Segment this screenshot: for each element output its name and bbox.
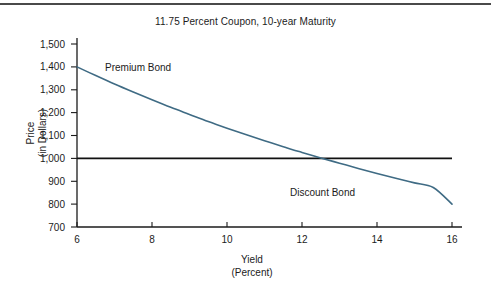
chart-figure: 11.75 Percent Coupon, 10-year Maturity 1… (0, 0, 491, 296)
y-tick-marks (71, 44, 77, 227)
y-axis-title-line2: (in Dollars) (37, 109, 48, 157)
y-tick-label: 700 (48, 222, 65, 233)
x-tick-label: 14 (371, 234, 383, 245)
x-tick-labels: 6 8 10 12 14 16 (74, 234, 458, 245)
annotation-discount-bond: Discount Bond (290, 187, 355, 198)
bond-price-yield-plot: 1,500 1,400 1,300 1,200 1,100 1,000 900 … (0, 0, 491, 296)
x-axis-title: Yield (Percent) (231, 254, 272, 278)
x-tick-label: 16 (446, 234, 458, 245)
x-tick-label: 12 (296, 234, 308, 245)
y-tick-label: 800 (48, 199, 65, 210)
x-axis-title-line2: (Percent) (231, 267, 272, 278)
y-axis-title: Price (in Dollars) (25, 109, 48, 157)
y-tick-label: 1,500 (40, 39, 65, 50)
price-yield-curve (77, 67, 452, 204)
y-tick-label: 900 (48, 176, 65, 187)
annotation-premium-bond: Premium Bond (105, 62, 171, 73)
x-tick-label: 10 (221, 234, 233, 245)
x-tick-label: 6 (74, 234, 80, 245)
x-tick-label: 8 (149, 234, 155, 245)
y-tick-label: 1,400 (40, 61, 65, 72)
x-tick-marks (77, 222, 452, 227)
y-axis-title-line1: Price (25, 121, 36, 144)
y-tick-label: 1,300 (40, 84, 65, 95)
x-axis-title-line1: Yield (241, 254, 263, 265)
